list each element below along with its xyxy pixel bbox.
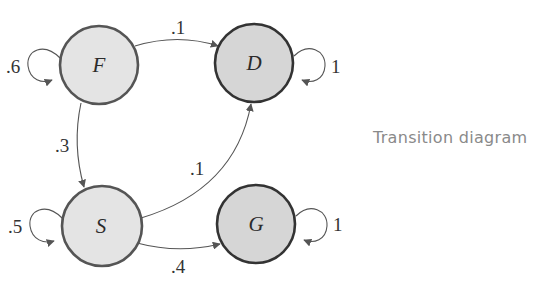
label-f-s: .3 <box>55 135 69 156</box>
state-f-label: F <box>92 53 106 77</box>
state-g-label: G <box>248 212 263 236</box>
label-s-d: .1 <box>190 158 204 179</box>
transition-diagram: F D S G .6 .1 .3 1 .5 .1 .4 1 <box>0 0 554 305</box>
edge-f-f <box>28 49 60 81</box>
state-s: S <box>62 186 142 266</box>
label-s-s: .5 <box>8 216 22 237</box>
state-g: G <box>217 185 295 263</box>
state-d-label: D <box>245 51 261 75</box>
edge-d-d <box>294 49 325 82</box>
state-d: D <box>215 24 293 102</box>
label-d-d: 1 <box>331 56 341 77</box>
state-s-label: S <box>96 214 107 238</box>
edge-f-s <box>77 103 84 187</box>
label-g-g: 1 <box>333 214 343 235</box>
diagram-caption: Transition diagram <box>373 128 527 147</box>
label-f-d: .1 <box>171 17 185 38</box>
label-f-f: .6 <box>6 56 20 77</box>
edge-f-d <box>135 40 218 47</box>
edge-g-g <box>296 209 327 242</box>
state-f: F <box>60 26 138 104</box>
label-s-g: .4 <box>171 256 186 277</box>
edge-s-s <box>30 209 62 242</box>
edge-s-g <box>137 243 220 249</box>
